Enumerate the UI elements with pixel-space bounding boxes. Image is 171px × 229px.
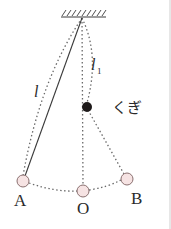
dotted-string-vertical [82,18,83,185]
nail-icon [82,102,92,112]
label-length-full: l [34,83,39,100]
dotted-string-nail-to-b [88,110,124,174]
label-point-o: O [77,199,89,218]
label-nail: くぎ [112,99,142,117]
ball-a [17,175,29,187]
ball-o [77,185,89,197]
ceiling-support [61,10,106,17]
label-point-b: B [131,189,142,208]
ball-b [121,173,133,185]
dotted-trajectory [29,180,121,191]
label-point-a: A [14,191,27,210]
pendulum-diagram: l l 1 くぎ A O B [0,0,171,229]
label-length-short-subscript: 1 [97,66,102,76]
label-length-short: l [91,56,96,73]
